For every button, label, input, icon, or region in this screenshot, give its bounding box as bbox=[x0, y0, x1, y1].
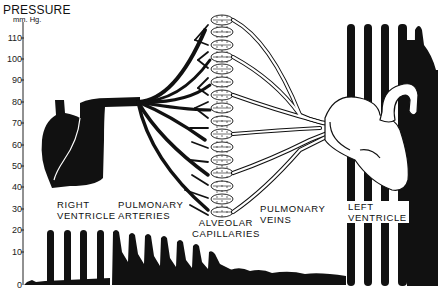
y-tick-60: 60 bbox=[0, 140, 22, 150]
y-axis-unit: mm. Hg. bbox=[13, 15, 41, 24]
y-tick-100: 100 bbox=[0, 54, 22, 64]
y-tick-110: 110 bbox=[0, 33, 22, 43]
pulmonary-circulation-diagram: PRESSURE mm. Hg. 110 100 90 80 70 60 50 … bbox=[0, 0, 438, 297]
y-tick-80: 80 bbox=[0, 97, 22, 107]
label-right-ventricle: RIGHT VENTRICLE bbox=[57, 199, 116, 221]
label-pulmonary-veins: PULMONARY VEINS bbox=[260, 203, 325, 225]
y-tick-50: 50 bbox=[0, 161, 22, 171]
y-tick-0: 0 bbox=[0, 280, 22, 290]
label-alveolar-capillaries: ALVEOLAR CAPILLARIES bbox=[192, 217, 260, 239]
label-left-ventricle: LEFT VENTRICLE bbox=[346, 201, 409, 223]
y-tick-10: 10 bbox=[0, 247, 22, 257]
diagram-canvas bbox=[0, 0, 438, 297]
y-tick-30: 30 bbox=[0, 204, 22, 214]
y-tick-20: 20 bbox=[0, 225, 22, 235]
label-pulmonary-arteries: PULMONARY ARTERIES bbox=[118, 199, 183, 221]
y-tick-40: 40 bbox=[0, 182, 22, 192]
y-tick-90: 90 bbox=[0, 75, 22, 85]
y-tick-70: 70 bbox=[0, 118, 22, 128]
pulmonary-artery-tree bbox=[138, 25, 210, 215]
pressure-waveform bbox=[24, 230, 346, 285]
right-heart-shape bbox=[42, 97, 140, 188]
